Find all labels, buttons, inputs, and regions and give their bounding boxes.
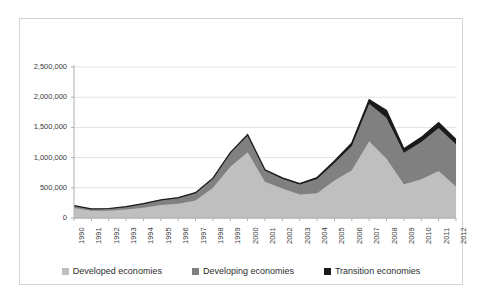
- x-tick-label: 1990: [77, 227, 86, 244]
- x-tick-label: 2011: [442, 228, 451, 244]
- x-tick-label: 2002: [285, 227, 294, 244]
- x-tick-label: 1993: [129, 227, 138, 244]
- legend-label: Developing economies: [203, 266, 294, 276]
- x-tick-label: 1991: [94, 227, 103, 244]
- y-tick-label: 1,000,000: [34, 153, 67, 162]
- x-tick-label: 2012: [459, 227, 468, 244]
- legend-swatch-icon: [192, 268, 199, 275]
- legend-label: Developed economies: [73, 266, 162, 276]
- y-tick-label: 500,000: [40, 183, 67, 192]
- x-tick-label: 1994: [146, 227, 155, 244]
- legend-swatch-icon: [324, 268, 331, 275]
- x-tick-label: 2000: [251, 227, 260, 244]
- legend-label: Transition economies: [335, 266, 420, 276]
- legend-item[interactable]: Developed economies: [62, 266, 162, 276]
- x-tick-label: 2001: [268, 227, 277, 244]
- x-tick-label: 1997: [199, 227, 208, 244]
- x-tick-label: 1999: [233, 227, 242, 244]
- x-tick-label: 2010: [424, 227, 433, 244]
- y-tick-label: 1,500,000: [34, 122, 67, 131]
- plot-area: 0500,0001,000,0001,500,0002,000,0002,500…: [20, 19, 462, 284]
- x-tick-label: 1995: [164, 227, 173, 244]
- x-tick-label: 2008: [390, 227, 399, 244]
- y-tick-label: 2,000,000: [34, 92, 67, 101]
- legend-swatch-icon: [62, 268, 69, 275]
- chart-frame: 0500,0001,000,0001,500,0002,000,0002,500…: [19, 18, 463, 285]
- x-tick-label: 2004: [320, 227, 329, 244]
- x-tick-label: 1996: [181, 227, 190, 244]
- x-tick-label: 1992: [112, 227, 121, 244]
- x-tick-label: 2006: [355, 227, 364, 244]
- x-tick-label: 2009: [407, 227, 416, 244]
- x-tick-label: 2003: [303, 227, 312, 244]
- y-tick-label: 0: [63, 213, 67, 222]
- x-tick-label: 2005: [337, 227, 346, 244]
- area-chart-svg: [20, 19, 464, 286]
- x-tick-label: 2007: [372, 227, 381, 244]
- legend-item[interactable]: Developing economies: [192, 266, 294, 276]
- stacked-areas: [74, 100, 456, 218]
- legend-item[interactable]: Transition economies: [324, 266, 420, 276]
- y-tick-label: 2,500,000: [34, 62, 67, 71]
- chart-legend: Developed economiesDeveloping economiesT…: [20, 266, 462, 276]
- x-tick-label: 1998: [216, 227, 225, 244]
